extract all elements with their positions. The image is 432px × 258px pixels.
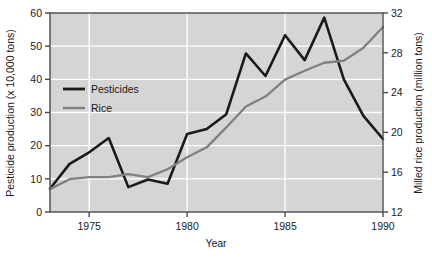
x-axis-title: Year bbox=[205, 237, 227, 249]
y-axis-right-tick-label: 12 bbox=[391, 206, 403, 218]
y-axis-left-tick-label: 10 bbox=[30, 173, 42, 185]
x-axis-tick-label: 1975 bbox=[77, 220, 101, 232]
x-axis-tick-label: 1985 bbox=[273, 220, 297, 232]
legend-label-pesticides: Pesticides bbox=[91, 83, 139, 95]
y-axis-left-tick-label: 50 bbox=[30, 40, 42, 52]
y-axis-right-tick-label: 20 bbox=[391, 126, 403, 138]
dual-axis-line-chart: 0102030405060 121620242832 1975198019851… bbox=[0, 0, 432, 258]
y-axis-left-tick-label: 40 bbox=[30, 73, 42, 85]
y-axis-left-tick-label: 0 bbox=[36, 206, 42, 218]
y-axis-right-tick-label: 28 bbox=[391, 47, 403, 59]
x-axis-tick-label: 1990 bbox=[371, 220, 395, 232]
legend-label-rice: Rice bbox=[91, 102, 112, 114]
y-axis-right-tick-label: 16 bbox=[391, 166, 403, 178]
y-axis-right-tick-label: 24 bbox=[391, 86, 403, 98]
y-axis-right-title: Milled rice production (million tons) bbox=[412, 32, 424, 194]
y-axis-left-tick-label: 20 bbox=[30, 139, 42, 151]
y-axis-left-tick-label: 30 bbox=[30, 106, 42, 118]
chart-figure: 0102030405060 121620242832 1975198019851… bbox=[0, 0, 432, 258]
x-axis-tick-label: 1980 bbox=[175, 220, 199, 232]
y-axis-left-title: Pesticide production (x 10,000 tons) bbox=[4, 29, 16, 197]
y-axis-left-tick-label: 60 bbox=[30, 7, 42, 19]
y-axis-right-tick-label: 32 bbox=[391, 7, 403, 19]
